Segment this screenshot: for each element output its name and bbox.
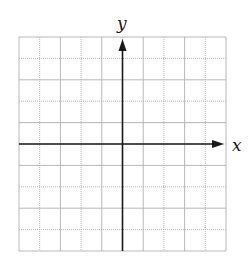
x-axis-label: x: [232, 135, 242, 155]
x-axis-arrow-icon: [212, 140, 224, 148]
axes: [19, 39, 224, 251]
coordinate-plane: x y: [0, 0, 251, 257]
y-axis-label: y: [116, 13, 127, 33]
y-axis-arrow-icon: [119, 39, 127, 51]
